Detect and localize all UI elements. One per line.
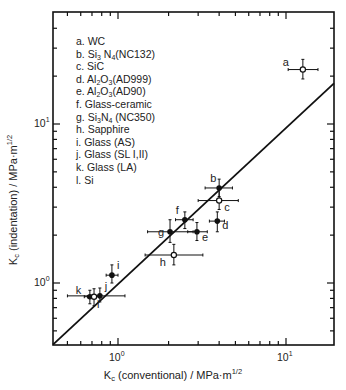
tick-base: 10 xyxy=(277,351,289,363)
legend-item-h: h. Sapphire xyxy=(76,123,155,136)
tick-base: 10 xyxy=(34,117,46,129)
x-axis-title: Kc (conventional) / MPa·m1/2 xyxy=(0,369,346,381)
tick-base: 10 xyxy=(34,276,46,288)
point-label-j: j xyxy=(104,280,107,292)
open-marker xyxy=(91,294,96,299)
tick-exponent: 1 xyxy=(46,116,50,123)
x-title-sup: 1/2 xyxy=(232,367,242,376)
legend-item-c: c. SiC xyxy=(76,60,155,73)
legend-item-g: g. Si3N4 (NC350) xyxy=(76,111,155,124)
filled-marker xyxy=(214,218,220,224)
filled-marker xyxy=(109,272,115,278)
data-point-a xyxy=(288,59,318,79)
legend-item-d: d. Al2O3(AD999) xyxy=(76,73,155,86)
legend-item-j: j. Glass (SL I,II) xyxy=(76,148,155,161)
point-label-l: l xyxy=(97,298,99,310)
point-label-e: e xyxy=(202,231,208,243)
data-point-h xyxy=(145,244,203,265)
y-tick-label-1e0: 100 xyxy=(34,276,50,288)
filled-marker xyxy=(182,217,188,223)
legend-item-f: f. Glass-ceramic xyxy=(76,98,155,111)
y-tick-label-1e1: 101 xyxy=(34,117,50,129)
y-axis-title: Kc (indentation) / MPa·m1/2 xyxy=(7,135,19,265)
legend-item-i: i. Glass (AS) xyxy=(76,136,155,149)
x-title-rest: (conventional) / MPa·m xyxy=(115,369,232,381)
point-label-f: f xyxy=(176,204,180,216)
legend: a. WCb. Si3 N4(NC132)c. SiCd. Al2O3(AD99… xyxy=(76,35,155,186)
open-marker xyxy=(300,67,305,72)
tick-exponent: 0 xyxy=(121,350,125,357)
x-tick-label-1e0: 100 xyxy=(109,351,125,363)
point-label-g: g xyxy=(158,226,164,238)
point-label-c: c xyxy=(224,201,230,213)
legend-item-b: b. Si3 N4(NC132) xyxy=(76,48,155,61)
filled-marker xyxy=(167,229,173,235)
point-label-h: h xyxy=(160,256,166,268)
point-label-k: k xyxy=(76,284,82,296)
legend-item-l: l. Si xyxy=(76,174,155,187)
point-label-d: d xyxy=(222,219,228,231)
open-marker xyxy=(217,198,222,203)
point-label-a: a xyxy=(283,56,290,68)
y-title-sub: c xyxy=(12,254,21,258)
x-tick-label-1e1: 101 xyxy=(277,351,293,363)
data-point-g xyxy=(148,220,194,243)
point-label-i: i xyxy=(117,259,119,271)
legend-item-e: e. Al2O3(AD90) xyxy=(76,85,155,98)
y-title-rest: (indentation) / MPa·m xyxy=(7,145,19,254)
tick-exponent: 1 xyxy=(289,350,293,357)
point-label-b: b xyxy=(210,172,216,184)
legend-item-a: a. WC xyxy=(76,35,155,48)
tick-base: 10 xyxy=(109,351,121,363)
tick-exponent: 0 xyxy=(46,275,50,282)
open-marker xyxy=(171,252,176,257)
filled-marker xyxy=(194,229,200,235)
legend-item-k: k. Glass (LA) xyxy=(76,161,155,174)
y-title-k: K xyxy=(7,258,19,265)
y-title-sup: 1/2 xyxy=(5,135,14,145)
chart-plot-area: abcdefghijkl xyxy=(0,0,346,390)
